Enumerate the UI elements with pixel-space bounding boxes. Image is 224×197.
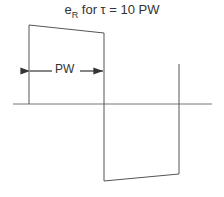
negative-pulse — [104, 104, 179, 181]
pulse-width-label: PW — [54, 62, 75, 76]
waveform-diagram — [0, 0, 224, 197]
